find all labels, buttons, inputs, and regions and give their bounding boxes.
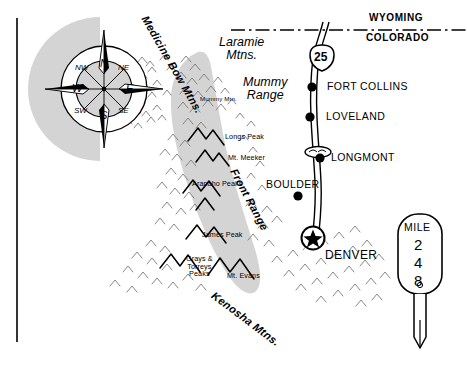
- state-label-colorado: COLORADO: [366, 33, 429, 44]
- mile-marker-heading: MILE: [404, 222, 431, 233]
- interstate-shield-number: 25: [314, 51, 327, 64]
- peak-label-grays-torreys-peaks: Grays & Torreys Peaks: [186, 255, 213, 278]
- compass-label-east: E: [126, 83, 133, 95]
- peak-label-james-peak: James Peak: [202, 231, 243, 239]
- compass-label-northeast: NE: [118, 64, 129, 72]
- city-dot-fort-collins: [307, 82, 316, 91]
- city-dot-longmont: [315, 153, 324, 162]
- city-label-fort-collins: FORT COLLINS: [327, 81, 408, 92]
- mile-marker-digit-3: 8: [414, 273, 422, 289]
- peak-label-arapaho-peaks: Arapaho Peaks: [192, 180, 242, 188]
- mile-marker-digit-1: 2: [414, 237, 422, 253]
- city-label-boulder: BOULDER: [266, 179, 320, 190]
- peak-label-mt-meeker: Mt. Meeker: [228, 154, 265, 162]
- compass-label-north: N: [100, 58, 108, 70]
- peak-label-mummy-mtn: Mummy Mtn.: [200, 96, 237, 103]
- city-dot-boulder: [293, 191, 302, 200]
- city-label-longmont: LONGMONT: [331, 152, 395, 163]
- peak-label-longs-peak: Longs Peak: [225, 133, 264, 141]
- compass-label-southwest: SW: [74, 107, 87, 115]
- compass-label-southeast: SE: [118, 107, 129, 115]
- compass-label-west: W: [72, 83, 82, 95]
- peak-label-mt-evans: Mt. Evans: [227, 272, 260, 280]
- mile-marker-digit-2: 4: [414, 255, 422, 271]
- state-label-wyoming: WYOMING: [369, 13, 423, 24]
- city-dot-loveland: [305, 112, 314, 121]
- capital-star-denver: [302, 227, 325, 250]
- compass-label-south: S: [100, 110, 107, 122]
- range-label-mummy-range: Mummy Range: [243, 76, 287, 102]
- city-label-denver: DENVER: [325, 249, 377, 262]
- map-canvas: WYOMING COLORADO 25 FORT COLLINS LOVELAN…: [0, 0, 467, 367]
- range-label-laramie-mtns: Laramie Mtns.: [219, 36, 264, 62]
- compass-label-northwest: NW: [75, 64, 88, 72]
- city-label-loveland: LOVELAND: [326, 111, 385, 122]
